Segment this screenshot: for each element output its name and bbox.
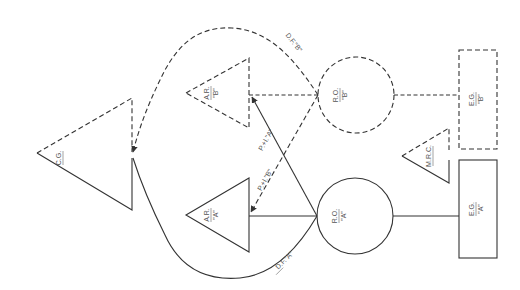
flow-diagram: C.G. A.R. "B" A.R. "A" R.O. "B" bbox=[0, 0, 520, 290]
cg-label: C.G. bbox=[55, 151, 62, 165]
ro-b-node: R.O. "B" bbox=[318, 57, 394, 133]
mrc-node: M.R.C. bbox=[402, 128, 449, 183]
ro-a-label-bottom: "A" bbox=[340, 211, 347, 221]
edge-df-a bbox=[133, 158, 317, 278]
ar-b-node: A.R. "B" bbox=[186, 58, 249, 128]
ar-a-label-bottom: "A" bbox=[212, 210, 219, 220]
ro-b-label-top: R.O. bbox=[332, 88, 339, 102]
ar-b-label-bottom: "B" bbox=[212, 88, 219, 98]
ro-a-label-top: R.O. bbox=[331, 209, 338, 223]
eg-b-node: E.G. "B" bbox=[459, 50, 497, 149]
pi-a-label: P.+I."A" bbox=[257, 127, 275, 151]
mrc-label: M.R.C. bbox=[425, 145, 432, 167]
eg-b-label-top: E.G. bbox=[468, 92, 475, 106]
eg-a-label-bottom: "A" bbox=[477, 204, 484, 214]
df-a-label: D.F."A" bbox=[274, 250, 295, 271]
eg-a-node: E.G. "A" bbox=[459, 160, 497, 258]
ro-b-label-bottom: "B" bbox=[341, 90, 348, 100]
ar-b-label-top: A.R. bbox=[203, 86, 210, 100]
ar-a-label-top: A.R. bbox=[203, 208, 210, 222]
eg-a-label-top: E.G. bbox=[468, 202, 475, 216]
df-b-label: D.F."B" bbox=[284, 32, 303, 54]
ar-a-node: A.R. "A" bbox=[186, 178, 249, 252]
eg-b-label-bottom: "B" bbox=[477, 94, 484, 104]
edge-pi-a bbox=[252, 97, 317, 216]
edge-df-b bbox=[133, 28, 318, 152]
cg-node: C.G. bbox=[37, 98, 132, 210]
ro-a-node: R.O. "A" bbox=[317, 178, 393, 254]
